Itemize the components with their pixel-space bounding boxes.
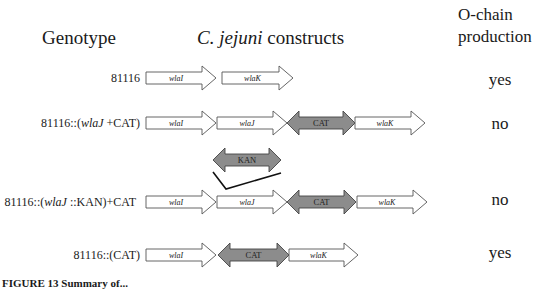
gene-arrow-wlai-row-1: wlaI: [146, 66, 216, 90]
gene-label: wlaI: [169, 198, 184, 207]
marker-arrow-cat-row-3: CAT: [287, 190, 356, 214]
gene-arrow-wlak-row-1: wlaK: [222, 66, 293, 90]
gene-label: wlaK: [310, 251, 328, 260]
gene-arrow-wlai-row-2: wlaI: [146, 111, 216, 135]
gene-arrow-wlai-row-4: wlaI: [146, 243, 216, 267]
gene-arrow-wlaj-row-3: wlaJ: [217, 190, 287, 214]
insertion-lines: [213, 172, 281, 189]
gene-label: wlaK: [244, 74, 262, 83]
gene-label: wlaK: [377, 119, 395, 128]
gene-arrow-wlak-row-3: wlaK: [357, 190, 427, 214]
marker-label: CAT: [245, 250, 262, 260]
gene-label: wlaJ: [239, 119, 255, 128]
marker-label: CAT: [313, 118, 330, 128]
gene-arrow-wlak-row-2: wlaK: [355, 111, 425, 135]
gene-label: wlaI: [169, 251, 184, 260]
gene-arrow-wlai-row-3: wlaI: [146, 190, 216, 214]
marker-label: KAN: [238, 155, 256, 165]
gene-arrow-wlaj-row-2: wlaJ: [217, 111, 287, 135]
marker-arrow-cat-row-2: CAT: [287, 111, 355, 135]
gene-label: wlaI: [169, 74, 184, 83]
gene-arrow-wlak-row-4: wlaK: [289, 243, 358, 267]
figure-caption: FIGURE 13 Summary of...: [2, 277, 128, 289]
marker-arrow-cat-row-4: CAT: [218, 243, 289, 267]
marker-label: CAT: [313, 197, 330, 207]
gene-label: wlaJ: [239, 198, 255, 207]
gene-label: wlaK: [379, 198, 397, 207]
marker-arrow-kan-insertion: KAN: [213, 148, 281, 172]
gene-label: wlaI: [169, 119, 184, 128]
